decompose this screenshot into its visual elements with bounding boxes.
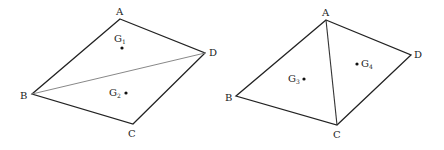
- centroid-g1-dot: [120, 46, 123, 49]
- vertex-label-c: C: [333, 129, 341, 140]
- centroid-label-g2: G2: [109, 87, 121, 99]
- left-quadrilateral: A B C D G1 G2: [20, 6, 217, 139]
- vertex-label-d: D: [414, 49, 422, 60]
- centroid-g4-dot: [355, 62, 358, 65]
- centroid-label-g3: G3: [288, 73, 300, 85]
- right-quadrilateral: A B C D G3 G4: [225, 7, 422, 140]
- vertex-label-d: D: [209, 47, 217, 58]
- diagonal-bd: [32, 53, 205, 94]
- centroid-g3-dot: [302, 77, 305, 80]
- quadrilateral-abcd-right: [236, 20, 411, 125]
- centroid-label-g4: G4: [361, 58, 373, 70]
- vertex-label-a: A: [321, 7, 330, 18]
- diagram-canvas: A B C D G1 G2 A B C D G3 G4: [0, 0, 444, 150]
- vertex-label-c: C: [128, 128, 136, 139]
- vertex-label-b: B: [20, 90, 27, 101]
- vertex-label-a: A: [115, 6, 124, 17]
- centroid-g2-dot: [124, 91, 127, 94]
- centroid-label-g1: G1: [114, 33, 126, 45]
- vertex-label-b: B: [225, 92, 232, 103]
- diagonal-ac: [326, 20, 337, 125]
